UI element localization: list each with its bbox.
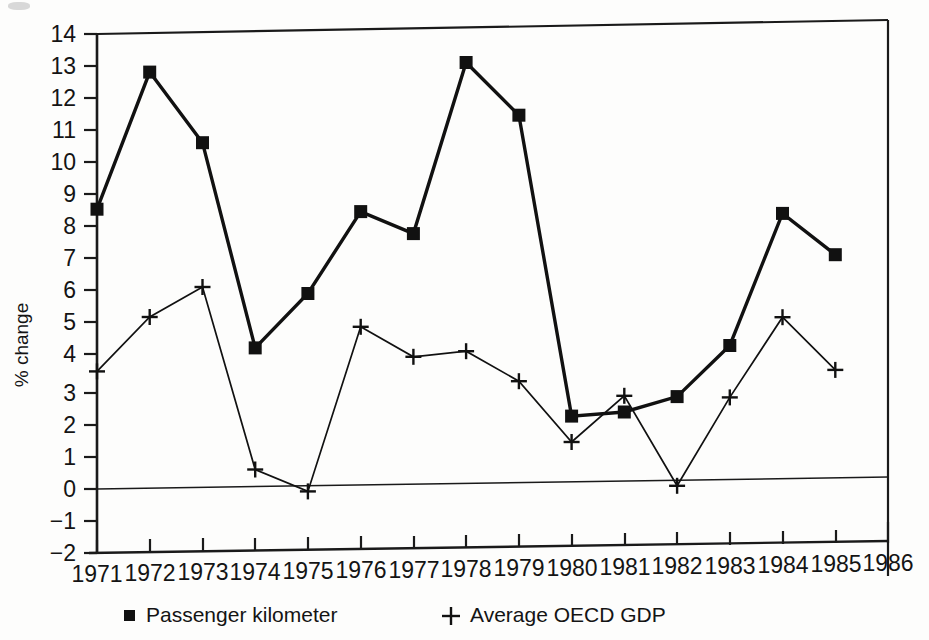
- data-point-marker-square: [618, 406, 631, 419]
- figure-canvas: 14 13 12 11 10 9 8 7 6 5 4 3 2 1 0 −1 −2…: [0, 0, 929, 640]
- y-axis-ticks: [84, 34, 97, 553]
- chart-legend: Passenger kilometer Average OECD GDP: [124, 603, 666, 626]
- legend-label-passenger-kilometer: Passenger kilometer: [146, 603, 337, 626]
- y-tick-label: 14: [50, 21, 76, 47]
- x-tick-label: 1986: [862, 550, 913, 576]
- plot-frame: [89, 20, 888, 576]
- y-tick-label: 11: [52, 117, 76, 143]
- y-tick-label: 7: [63, 245, 76, 271]
- x-tick-label: 1980: [546, 555, 597, 581]
- data-point-marker-square: [249, 341, 262, 354]
- data-point-marker-plus: [247, 462, 263, 478]
- passenger-kilometer-line-path: [97, 63, 835, 417]
- y-tick-label: 4: [63, 341, 76, 367]
- data-point-marker-plus: [722, 389, 738, 405]
- data-point-marker-plus: [458, 343, 474, 359]
- data-point-marker-square: [196, 136, 209, 149]
- data-point-marker-square: [354, 205, 367, 218]
- data-point-marker-plus: [353, 319, 369, 335]
- y-tick-label: 8: [63, 213, 76, 239]
- y-axis-title: % change: [11, 303, 32, 388]
- y-tick-label: 9: [63, 181, 76, 207]
- data-point-marker-square: [671, 390, 684, 403]
- legend-plus-icon: [442, 607, 460, 625]
- x-axis-tick-labels: 1971 1972 1973 1974 1975 1976 1977 1978 …: [71, 550, 913, 587]
- line-chart: 14 13 12 11 10 9 8 7 6 5 4 3 2 1 0 −1 −2…: [0, 0, 929, 640]
- data-point-marker-square: [143, 66, 156, 79]
- data-point-marker-square: [723, 339, 736, 352]
- data-point-marker-square: [565, 410, 578, 423]
- x-tick-label: 1976: [335, 557, 386, 583]
- y-axis-tick-labels: 14 13 12 11 10 9 8 7 6 5 4 3 2 1 0 −1 −2: [50, 21, 76, 566]
- x-tick-label: 1971: [71, 561, 122, 587]
- data-point-marker-plus: [195, 279, 211, 295]
- zero-reference-line: [97, 477, 888, 489]
- x-tick-label: 1979: [493, 555, 544, 581]
- x-tick-label: 1972: [124, 560, 175, 586]
- data-point-marker-square: [301, 287, 314, 300]
- data-point-marker-square: [91, 203, 104, 216]
- y-tick-label: 13: [50, 53, 76, 79]
- frame-top-border: [97, 20, 888, 34]
- y-tick-label: 6: [63, 277, 76, 303]
- y-tick-label: 2: [63, 412, 76, 438]
- x-tick-label: 1977: [388, 557, 439, 583]
- x-tick-label: 1983: [704, 553, 755, 579]
- x-tick-label: 1973: [177, 559, 228, 585]
- data-point-marker-square: [512, 109, 525, 122]
- data-point-marker-square: [407, 227, 420, 240]
- series-average-oecd-gdp: [89, 279, 843, 499]
- gdp-line-path: [97, 287, 835, 491]
- gdp-marker-group: [89, 279, 843, 499]
- y-tick-label: 1: [63, 444, 76, 470]
- legend-square-icon: [124, 610, 135, 621]
- x-tick-label: 1978: [440, 556, 491, 582]
- data-point-marker-square: [829, 248, 842, 261]
- x-axis-ticks: [97, 522, 888, 553]
- data-point-marker-plus: [405, 349, 421, 365]
- data-point-marker-square: [460, 56, 473, 69]
- y-tick-label: 0: [63, 476, 76, 502]
- y-tick-label: 10: [50, 149, 76, 175]
- passenger-kilometer-marker-group: [91, 56, 842, 423]
- x-tick-label: 1975: [282, 558, 333, 584]
- y-tick-label: −1: [50, 508, 76, 534]
- x-tick-label: 1984: [757, 552, 808, 578]
- x-tick-label: 1974: [229, 559, 280, 585]
- data-point-marker-square: [776, 207, 789, 220]
- series-passenger-kilometer: [91, 56, 842, 423]
- x-tick-label: 1981: [599, 554, 650, 580]
- y-tick-label: 3: [63, 380, 76, 406]
- y-tick-label: 12: [50, 85, 76, 111]
- y-tick-label: 5: [63, 309, 76, 335]
- x-tick-label: 1982: [651, 553, 702, 579]
- x-tick-label: 1985: [810, 551, 861, 577]
- legend-label-average-oecd-gdp: Average OECD GDP: [470, 603, 666, 626]
